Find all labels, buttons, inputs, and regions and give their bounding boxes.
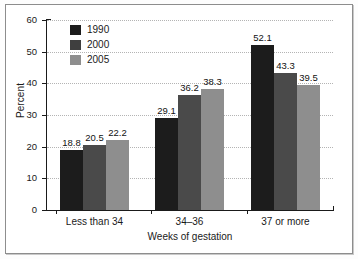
bar [274, 73, 297, 210]
legend-swatch-icon [70, 55, 81, 65]
y-axis-tick-label: 0 [5, 205, 37, 214]
x-axis-right-cap [333, 206, 334, 211]
x-axis-category-label: 37 or more [238, 216, 333, 227]
gridline [47, 52, 333, 53]
bar [106, 140, 129, 210]
bar [178, 95, 201, 210]
x-axis-category-label: 34–36 [142, 216, 237, 227]
legend-label: 2005 [87, 54, 109, 66]
y-axis-tick [42, 115, 47, 116]
x-axis-category-label: Less than 34 [47, 216, 142, 227]
x-axis-title: Weeks of gestation [47, 231, 333, 242]
x-axis-group-tick [151, 210, 152, 214]
legend-label: 2000 [87, 39, 109, 51]
y-axis-tick [42, 178, 47, 179]
bar-value-label: 22.2 [100, 128, 135, 138]
legend-swatch-icon [70, 25, 81, 35]
bar-value-label: 52.1 [245, 33, 280, 43]
bar-value-label: 38.3 [195, 77, 230, 87]
y-axis-tick-label: 60 [5, 15, 37, 24]
legend-swatch-icon [70, 40, 81, 50]
x-axis-group-tick [56, 210, 57, 214]
x-axis-line [46, 210, 334, 211]
y-axis-tick [42, 210, 47, 211]
y-axis-tick [42, 52, 47, 53]
bar [201, 89, 224, 210]
bar-value-label: 39.5 [291, 73, 326, 83]
y-axis-title: Percent [15, 46, 26, 156]
y-axis-tick-label: 10 [5, 173, 37, 182]
bar [60, 150, 83, 210]
y-axis-tick [42, 83, 47, 84]
gridline [47, 20, 333, 21]
chart-figure: 0102030405060 Percent 18.820.522.229.136… [0, 0, 358, 259]
legend-label: 1990 [87, 24, 109, 36]
bar-value-label: 43.3 [268, 61, 303, 71]
bar [297, 85, 320, 210]
y-axis-tick [42, 20, 47, 21]
bar [155, 118, 178, 210]
x-axis-group-tick [247, 210, 248, 214]
bar [83, 145, 106, 210]
y-axis-tick [42, 147, 47, 148]
